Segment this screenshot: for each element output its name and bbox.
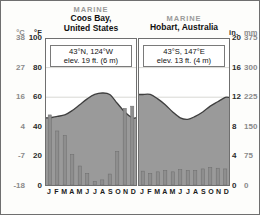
panel-0-precip-bar-11	[131, 106, 134, 185]
right-axis-mm-tick-3: 150	[244, 123, 260, 131]
panel-1-precip-bar-5	[179, 170, 182, 185]
panel-0-precip-bar-9	[116, 151, 119, 185]
panel-1-month-6: J	[184, 188, 192, 195]
panel-0-month-4: M	[76, 188, 84, 195]
panel-1-month-2: M	[153, 188, 161, 195]
panel-1-station-name: Hobart, Australia	[136, 23, 232, 33]
panel-0-month-1: F	[53, 188, 61, 195]
right-axis-mm-tick-5: 0	[244, 182, 260, 190]
panel-0-precip-bar-8	[108, 174, 111, 185]
right-axis-mm-tick-4: 75	[244, 152, 260, 160]
panel-0-precip-bar-10	[123, 108, 126, 185]
left-axis-fahrenheit-tick-5: 0	[24, 182, 42, 190]
panel-0-month-7: A	[99, 188, 107, 195]
panel-0-month-10: N	[122, 188, 130, 195]
panel-0-precip-bar-0	[48, 115, 51, 185]
right-axis-mm-tick-1: 300	[244, 64, 260, 72]
panel-1-precip-bar-7	[194, 170, 197, 185]
panel-0-month-0: J	[45, 188, 53, 195]
left-axis-fahrenheit-tick-0: 100	[24, 34, 42, 42]
panel-0-month-9: O	[114, 188, 122, 195]
left-axis-fahrenheit-tick-3: 40	[24, 123, 42, 131]
panel-0-month-3: A	[68, 188, 76, 195]
panel-1-month-5: J	[176, 188, 184, 195]
left-axis-celsius-tick-5: -18	[3, 182, 25, 190]
panel-1-station-line1: Hobart, Australia	[136, 23, 232, 33]
panel-1-month-7: A	[192, 188, 200, 195]
panel-0-coordinates: 43°N, 124°W	[51, 47, 131, 56]
panel-1-coordinates: 43°S, 147°E	[144, 47, 224, 56]
panel-0-month-8: S	[106, 188, 114, 195]
panel-1-precip-bar-2	[156, 172, 159, 185]
panel-0-month-5: J	[83, 188, 91, 195]
panel-0-precip-bar-1	[56, 131, 59, 185]
panel-1-month-10: N	[215, 188, 223, 195]
panel-1-precip-bar-8	[201, 169, 204, 185]
panel-1-precip-bar-9	[209, 167, 212, 185]
panel-1-month-8: S	[199, 188, 207, 195]
panel-0-precip-bar-5	[86, 173, 89, 185]
panel-0-month-2: M	[60, 188, 68, 195]
panel-0-month-11: D	[129, 188, 137, 195]
left-axis-celsius-tick-3: 4	[3, 123, 25, 131]
panel-1-precip-bar-11	[224, 169, 227, 185]
panel-1-precip-bar-4	[171, 172, 174, 185]
left-axis-fahrenheit-tick-1: 80	[24, 64, 42, 72]
panel-0-month-axis: JFMAMJJASOND	[45, 188, 137, 195]
panel-1-location-label: 43°S, 147°E elev. 13 ft. (4 m)	[143, 45, 225, 67]
panel-0-elevation: elev. 19 ft. (6 m)	[51, 56, 131, 65]
panel-1-precip-bar-3	[164, 170, 167, 185]
left-axis-celsius-tick-0: 38	[3, 34, 25, 42]
left-axis-celsius-tick-2: 16	[3, 93, 25, 101]
panel-1-month-4: M	[169, 188, 177, 195]
left-axis-celsius-tick-4: -7	[3, 152, 25, 160]
panel-1-month-3: A	[161, 188, 169, 195]
panel-1-precip-bar-6	[186, 170, 189, 185]
panel-1-precip-bar-1	[149, 173, 152, 185]
left-axis-fahrenheit-tick-2: 60	[24, 93, 42, 101]
panel-0-precip-bar-4	[78, 166, 81, 185]
panel-0-precip-bar-3	[71, 154, 74, 185]
panel-0-location-label: 43°N, 124°W elev. 19 ft. (6 m)	[50, 45, 132, 67]
panel-0-temperature-area	[46, 93, 136, 185]
climate-graph-figure: °C °F 3810027801660440-720-180 in. mm 20…	[0, 0, 260, 215]
panel-1-precip-bar-0	[141, 171, 144, 185]
left-axis-celsius-tick-1: 27	[3, 64, 25, 72]
panel-0-month-6: J	[91, 188, 99, 195]
panel-1-month-11: D	[222, 188, 230, 195]
panel-0-station-name: Coos Bay, United States	[45, 14, 137, 33]
panel-1-month-0: J	[138, 188, 146, 195]
panel-1-month-9: O	[207, 188, 215, 195]
right-axis-mm-tick-0: 375	[244, 34, 260, 42]
right-axis-mm-tick-2: 225	[244, 93, 260, 101]
panel-0-precip-bar-2	[63, 135, 66, 185]
panel-1-elevation: elev. 13 ft. (4 m)	[144, 56, 224, 65]
panel-0-precip-bar-6	[93, 181, 96, 185]
panel-0-precip-bar-7	[101, 180, 104, 185]
panel-1-month-axis: JFMAMJJASOND	[138, 188, 230, 195]
panel-1-temperature-area	[139, 94, 229, 185]
panel-0-station-line2: United States	[45, 24, 137, 34]
left-axis-fahrenheit-tick-4: 20	[24, 152, 42, 160]
panel-1-month-1: F	[146, 188, 154, 195]
panel-1-precip-bar-10	[216, 168, 219, 185]
